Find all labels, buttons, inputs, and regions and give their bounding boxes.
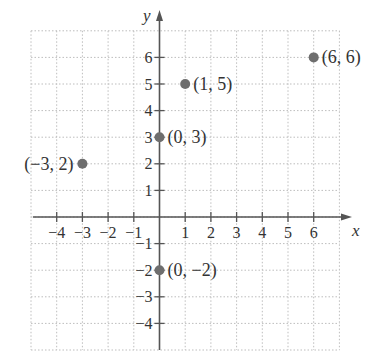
y-tick-label: −3 — [135, 288, 152, 305]
y-tick-label: 5 — [145, 76, 153, 93]
x-axis-label: x — [351, 221, 360, 240]
y-axis-arrow-icon — [156, 10, 163, 21]
data-point-marker — [180, 79, 190, 89]
x-tick-label: −4 — [48, 224, 65, 241]
data-point-label: (0, −2) — [168, 260, 217, 281]
y-tick-label: −2 — [135, 262, 152, 279]
y-tick-label: 4 — [145, 102, 153, 119]
data-point-marker — [155, 265, 165, 275]
data-point-label: (−3, 2) — [24, 154, 73, 175]
x-tick-label: 6 — [310, 224, 318, 241]
data-points: (−3, 2)(0, 3)(1, 5)(6, 6)(0, −2) — [24, 47, 360, 281]
y-tick-label: 6 — [145, 49, 153, 66]
data-point-label: (6, 6) — [322, 47, 361, 68]
data-point-marker — [155, 132, 165, 142]
coordinate-plane-chart: xy −4−3−2−1123456654321−1−2−3−4 (−3, 2)(… — [0, 0, 372, 357]
grid-lines — [31, 31, 339, 350]
x-tick-label: −2 — [100, 224, 117, 241]
data-point-label: (1, 5) — [193, 74, 232, 95]
x-tick-label: 5 — [284, 224, 292, 241]
data-point-marker — [77, 159, 87, 169]
y-tick-label: −4 — [135, 315, 152, 332]
y-tick-label: 2 — [145, 155, 153, 172]
data-point-label: (0, 3) — [168, 127, 207, 148]
y-tick-label: −1 — [135, 235, 152, 252]
x-axis-arrow-icon — [341, 214, 352, 221]
y-tick-label: 1 — [145, 182, 153, 199]
data-point-marker — [309, 52, 319, 62]
x-tick-label: 4 — [258, 224, 266, 241]
x-tick-label: −3 — [74, 224, 91, 241]
x-tick-label: 2 — [207, 224, 215, 241]
plot-svg: xy −4−3−2−1123456654321−1−2−3−4 (−3, 2)(… — [0, 0, 372, 357]
x-tick-label: 1 — [181, 224, 189, 241]
x-tick-label: 3 — [233, 224, 241, 241]
y-axis-label: y — [141, 6, 151, 25]
y-tick-label: 3 — [145, 129, 153, 146]
